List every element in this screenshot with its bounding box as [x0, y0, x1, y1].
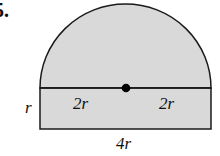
- label-right-radius: 2r: [159, 94, 175, 113]
- semicircle: [40, 4, 211, 88]
- rectangle: [40, 88, 211, 129]
- center-point: [122, 84, 131, 93]
- label-rect-height: r: [25, 98, 32, 117]
- label-rect-width: 4r: [116, 134, 132, 153]
- problem-number: 5.: [0, 0, 9, 21]
- figure: 5. 2r 2r r 4r: [0, 0, 220, 156]
- label-left-radius: 2r: [73, 94, 89, 113]
